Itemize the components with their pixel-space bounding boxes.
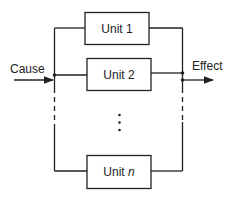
cause-label: Cause [10,62,45,76]
unit-n-label: Unit n [103,165,135,179]
unit-1-label: Unit 1 [101,22,133,36]
unit-2-block: Unit 2 [55,59,183,91]
unit-1-block: Unit 1 [55,13,183,45]
unit-2-label: Unit 2 [103,68,135,82]
effect-label: Effect [192,59,223,73]
unit-n-block: Unit n [55,156,183,189]
parallel-units-diagram: Cause Effect Unit 1 Unit 2 [0,0,230,197]
vertical-ellipsis [118,114,121,132]
